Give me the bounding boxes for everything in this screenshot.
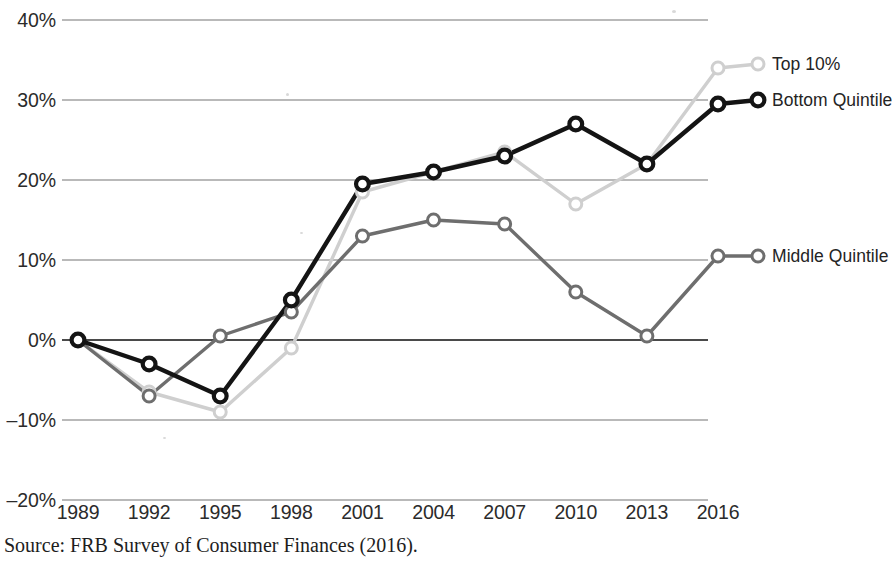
- x-tick-label: 2007: [483, 501, 526, 524]
- y-tick-label: 20%: [17, 169, 56, 192]
- y-axis: 40%30%20%10%0%–10%–20%: [0, 20, 56, 500]
- y-tick-label: 40%: [17, 9, 56, 32]
- x-tick-label: 1992: [128, 501, 171, 524]
- series-lines: [78, 64, 758, 412]
- x-tick-label: 1995: [199, 501, 242, 524]
- y-tick-label: 30%: [17, 89, 56, 112]
- source-note: Source: FRB Survey of Consumer Finances …: [4, 534, 418, 557]
- series-label-middle: Middle Quintile: [772, 246, 889, 267]
- gridlines: [62, 20, 708, 500]
- y-tick-label: –10%: [7, 409, 56, 432]
- chart-svg: [62, 20, 702, 500]
- y-tick-label: 10%: [17, 249, 56, 272]
- x-tick-label: 2001: [341, 501, 384, 524]
- x-tick-label: 1989: [57, 501, 100, 524]
- scan-speckle: [672, 10, 676, 13]
- x-axis: 1989199219951998200120042007201020132016: [0, 501, 863, 531]
- series-label-top10: Top 10%: [772, 54, 840, 75]
- x-tick-label: 1998: [270, 501, 313, 524]
- y-tick-label: 0%: [28, 329, 56, 352]
- x-tick-label: 2010: [554, 501, 597, 524]
- x-tick-label: 2013: [626, 501, 669, 524]
- x-tick-label: 2016: [697, 501, 740, 524]
- x-tick-label: 2004: [412, 501, 455, 524]
- plot-area: [62, 20, 702, 500]
- series-markers: [72, 58, 765, 418]
- series-label-bottom: Bottom Quintile: [772, 90, 892, 111]
